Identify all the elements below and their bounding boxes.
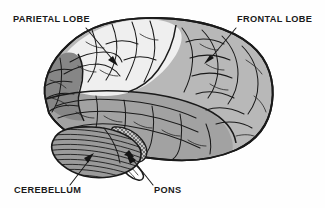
brain-illustration: PARIETAL LOBE FRONTAL LOBE CEREBELLUM PO… [0,0,325,208]
brain-diagram: PARIETAL LOBE FRONTAL LOBE CEREBELLUM PO… [0,0,325,208]
frontal-lobe-label: FRONTAL LOBE [237,14,312,24]
pons-label: PONS [154,185,181,195]
cerebellum-label: CEREBELLUM [14,185,81,195]
parietal-lobe-label: PARIETAL LOBE [13,14,90,24]
